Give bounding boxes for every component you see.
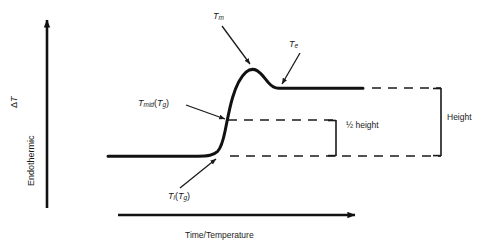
thermogram-drawing	[0, 0, 488, 248]
y-axis-endothermic-label: Endothermic	[27, 135, 36, 186]
half-height-label: ½ height	[346, 121, 379, 130]
delta-symbol: Δ	[9, 102, 19, 108]
label-t-i-paren-close: )	[187, 191, 190, 201]
tm-leader-arrow	[222, 26, 250, 64]
half-height-bracket	[328, 120, 336, 156]
height-label: Height	[447, 113, 472, 122]
label-t-m-subscript: m	[219, 14, 224, 21]
ti-leader-arrow	[180, 159, 216, 188]
tmid-leader-arrow	[186, 105, 225, 119]
te-leader-arrow	[282, 53, 300, 84]
dsc-curve	[108, 69, 363, 156]
label-t-mid: Tmid(Tg)	[138, 99, 169, 109]
height-bracket	[433, 88, 441, 156]
label-t-mid-paren-close: )	[166, 98, 169, 108]
x-axis-title: Time/Temperature	[185, 231, 254, 240]
label-t-e-subscript: e	[295, 42, 299, 49]
label-t-m: Tm	[213, 12, 224, 22]
label-t-e: Te	[289, 40, 298, 50]
y-axis-delta-t-label: ΔT	[10, 96, 19, 108]
label-t-mid-subscript: mid	[144, 101, 154, 108]
figure-canvas: ΔT Endothermic Time/Temperature Tm Te Tm…	[0, 0, 488, 248]
t-symbol: T	[9, 96, 19, 102]
label-t-i: Ti(Tg)	[168, 192, 190, 202]
